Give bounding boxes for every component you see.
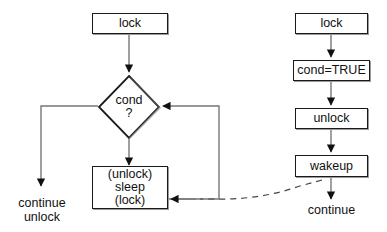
node-cond-true[interactable]: cond=TRUE [293, 60, 370, 81]
cond-decision-diamond [99, 76, 159, 138]
node-right-lock[interactable]: lock [295, 13, 368, 34]
node-wakeup[interactable]: wakeup [295, 155, 368, 177]
node-left-lock[interactable]: lock [92, 13, 168, 34]
node-right-unlock[interactable]: unlock [295, 108, 368, 129]
terminal-continue: continue [295, 203, 368, 217]
node-sleep-block[interactable]: (unlock) sleep (lock) [92, 166, 168, 209]
flowchart-canvas: lock cond ? (unlock) sleep (lock) contin… [0, 0, 387, 232]
edge-cond-to-continue [41, 106, 98, 186]
edge-sleep-loop-back [163, 106, 219, 199]
terminal-continue-unlock: continue unlock [6, 196, 78, 224]
